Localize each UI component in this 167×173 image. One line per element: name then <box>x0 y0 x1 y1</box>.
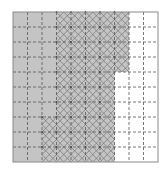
grid-diagram <box>0 0 167 173</box>
